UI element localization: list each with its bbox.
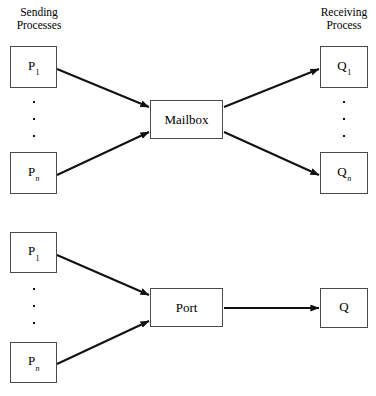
node-label-base: P [28, 58, 35, 73]
arrow-pn-to-port [57, 321, 149, 364]
figure-root: Sending Processes Receiving Process P1 P… [0, 0, 376, 396]
ellipsis-dot [33, 135, 35, 137]
node-receiver-q-bottom[interactable]: Q [320, 288, 368, 328]
ellipsis-dot [33, 288, 35, 290]
ellipsis-dot [343, 118, 345, 120]
node-sender-pn-bottom[interactable]: Pn [10, 342, 57, 383]
node-label: Qn [337, 165, 350, 182]
node-mailbox[interactable]: Mailbox [150, 100, 223, 139]
arrow-p1-to-mailbox [57, 69, 149, 107]
arrow-p1-to-port [57, 255, 149, 295]
caption-sending-processes: Sending Processes [2, 6, 76, 32]
node-receiver-qn-top[interactable]: Qn [320, 152, 368, 194]
ellipsis-dot [343, 101, 345, 103]
node-label: P1 [28, 59, 39, 76]
node-label-base: P [28, 243, 35, 258]
node-receiver-q1-top[interactable]: Q1 [320, 46, 368, 88]
ellipsis-dot [33, 305, 35, 307]
node-label-base: Q [337, 164, 346, 179]
node-sender-p1-top[interactable]: P1 [10, 46, 57, 88]
ellipsis-dot [33, 101, 35, 103]
node-sender-p1-bottom[interactable]: P1 [10, 232, 57, 273]
node-label-base: Q [339, 299, 348, 314]
arrow-mailbox-to-q1 [224, 69, 319, 107]
node-label: Pn [28, 354, 39, 371]
node-label-subscript: 1 [36, 68, 40, 77]
node-label-subscript: n [36, 174, 40, 183]
ellipsis-senders-top [32, 101, 36, 137]
node-label: P1 [28, 244, 39, 261]
node-label: Q1 [337, 59, 350, 76]
ellipsis-dot [343, 135, 345, 137]
node-label-subscript: n [36, 364, 40, 373]
node-label: Q [339, 300, 348, 317]
node-label-subscript: 1 [36, 254, 40, 263]
node-label-base: Q [337, 58, 346, 73]
node-label-base: P [28, 164, 35, 179]
arrow-mailbox-to-qn [224, 132, 319, 175]
node-label: Mailbox [164, 113, 208, 126]
node-sender-pn-top[interactable]: Pn [10, 152, 57, 194]
node-label-subscript: n [347, 174, 351, 183]
ellipsis-dot [33, 322, 35, 324]
caption-receiving-process: Receiving Process [306, 6, 376, 32]
ellipsis-dot [33, 118, 35, 120]
arrow-pn-to-mailbox [57, 132, 149, 175]
ellipsis-senders-bottom [32, 288, 36, 324]
ellipsis-receivers-top [342, 101, 346, 137]
node-label-subscript: 1 [347, 68, 351, 77]
node-port[interactable]: Port [150, 288, 223, 327]
node-label: Pn [28, 165, 39, 182]
node-label: Port [176, 301, 198, 314]
node-label-base: P [28, 353, 35, 368]
